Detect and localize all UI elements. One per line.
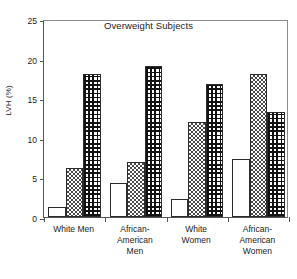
bar — [66, 168, 84, 217]
bar — [188, 122, 206, 217]
x-category-label-line: Women — [227, 246, 288, 257]
x-tick-mark — [228, 217, 229, 222]
x-tick-mark — [167, 217, 168, 222]
x-tick-mark — [289, 217, 290, 222]
x-category-label-line: African- — [227, 224, 288, 235]
x-category-label-line: African- — [104, 224, 165, 235]
y-tick-mark — [40, 61, 44, 62]
bar — [206, 84, 224, 217]
bar — [232, 159, 250, 217]
bar — [110, 183, 128, 217]
x-category-label-line: Men — [104, 246, 165, 257]
y-tick-mark — [40, 140, 44, 141]
x-category-label: White Men — [43, 224, 104, 235]
x-tick-mark — [105, 217, 106, 222]
x-category-label: WhiteWomen — [166, 224, 227, 246]
y-tick-mark — [40, 100, 44, 101]
bar — [267, 112, 285, 217]
bar — [48, 207, 66, 217]
x-category-label-line: White Men — [43, 224, 104, 235]
bar — [250, 74, 268, 217]
x-category-label-line: American — [227, 235, 288, 246]
x-category-label-line: White — [166, 224, 227, 235]
bar — [171, 199, 189, 217]
chart-figure: LVH (%) 0510152025 Overweight Subjects W… — [0, 0, 297, 279]
x-category-label: African-AmericanMen — [104, 224, 165, 257]
y-axis-title: LVH (%) — [4, 71, 13, 131]
bar — [83, 74, 101, 217]
plot-area: 0510152025 — [43, 20, 288, 218]
bar — [145, 66, 163, 217]
y-tick-mark — [40, 179, 44, 180]
chart-title: Overweight Subjects — [0, 20, 297, 31]
x-category-label-line: American — [104, 235, 165, 246]
x-category-label: African-AmericanWomen — [227, 224, 288, 257]
x-category-label-line: Women — [166, 235, 227, 246]
bar — [127, 162, 145, 217]
x-tick-mark — [44, 217, 45, 222]
